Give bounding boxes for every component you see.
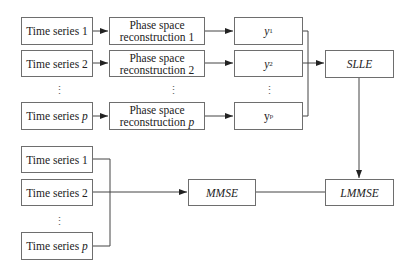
output-y2-box: y2 (234, 50, 303, 77)
phase-space-p-line2-text: reconstruction (120, 116, 186, 128)
mmse-label: MMSE (206, 187, 238, 199)
top-time-series-p-var: p (82, 110, 88, 122)
phase-space-reconstruction-1-box: Phase space reconstruction 1 (109, 17, 205, 45)
top-outputs-ellipsis: ⋮ (264, 88, 274, 92)
top-time-series-p-box: Time series p (21, 102, 93, 130)
phase-space-reconstruction-p-box: Phase space reconstruction p (109, 102, 205, 130)
phase-space-1-line1: Phase space (129, 19, 184, 31)
bottom-time-series-2-label: Time series 2 (26, 187, 88, 199)
lmmse-box: LMMSE (325, 179, 394, 206)
top-inputs-ellipsis: ⋮ (54, 88, 64, 92)
top-time-series-2-label: Time series 2 (26, 58, 88, 70)
output-y1-box: y1 (234, 17, 303, 45)
output-yp-box: yp (234, 102, 303, 130)
bottom-time-series-1-label: Time series 1 (26, 154, 88, 166)
phase-space-reconstruction-2-box: Phase space reconstruction 2 (109, 50, 205, 77)
phase-space-p-line2: reconstruction p (120, 116, 194, 128)
output-y1-sub: 1 (269, 25, 273, 37)
slle-label: SLLE (347, 58, 373, 70)
top-time-series-2-box: Time series 2 (21, 50, 93, 77)
output-yp-sub: p (270, 110, 274, 122)
top-time-series-p-label: Time series p (26, 110, 88, 122)
bottom-time-series-2-box: Time series 2 (21, 179, 93, 206)
phase-space-2-line1: Phase space (129, 52, 184, 64)
bottom-time-series-p-box: Time series p (21, 232, 93, 260)
phase-space-p-line1: Phase space (129, 104, 184, 116)
phase-space-p-var: p (188, 116, 194, 128)
top-time-series-p-text: Time series (26, 110, 79, 122)
slle-box: SLLE (325, 50, 394, 78)
bottom-time-series-1-box: Time series 1 (21, 146, 93, 173)
phase-space-2-line2: reconstruction 2 (120, 64, 194, 76)
top-time-series-1-box: Time series 1 (21, 17, 93, 45)
phase-space-1-line2: reconstruction 1 (120, 31, 194, 43)
bottom-time-series-p-var: p (82, 240, 88, 252)
mmse-box: MMSE (188, 179, 256, 206)
top-time-series-1-label: Time series 1 (26, 25, 88, 37)
output-y2-sub: 2 (269, 58, 273, 70)
top-reconstructions-ellipsis: ⋮ (168, 88, 178, 92)
bottom-time-series-p-text: Time series (26, 240, 79, 252)
bottom-time-series-p-label: Time series p (26, 240, 88, 252)
lmmse-label: LMMSE (340, 187, 378, 199)
bottom-inputs-ellipsis: ⋮ (54, 219, 64, 223)
